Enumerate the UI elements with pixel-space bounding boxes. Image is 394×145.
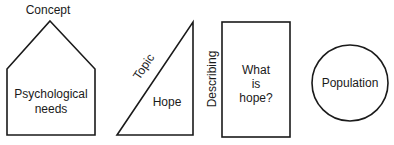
- circle-inner-line-1: Population: [322, 76, 379, 90]
- rectangle-inner-line-3: hope?: [239, 91, 273, 105]
- rectangle-inner-line-1: What: [242, 63, 271, 77]
- pentagon-inner-line-2: needs: [35, 102, 68, 116]
- concept-pentagon: Concept Psychological needs: [7, 3, 95, 135]
- pentagon-shape: [7, 21, 95, 135]
- topic-label: Topic: [130, 51, 157, 82]
- triangle-inner-line-1: Hope: [153, 95, 182, 109]
- population-circle: Population: [312, 45, 388, 121]
- topic-triangle: Topic Hope: [117, 22, 193, 135]
- rectangle-inner-line-2: is: [252, 77, 261, 91]
- diagram: Concept Psychological needs Topic Hope D…: [0, 0, 394, 145]
- describing-label: Describing: [205, 51, 219, 108]
- describing-rectangle: Describing What is hope?: [205, 22, 290, 137]
- pentagon-inner-line-1: Psychological: [14, 87, 87, 101]
- triangle-shape: [117, 22, 193, 135]
- concept-label: Concept: [26, 3, 71, 17]
